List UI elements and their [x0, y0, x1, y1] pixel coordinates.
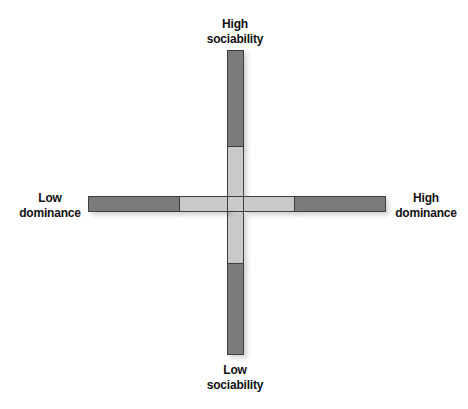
label-low-sociability: Low sociability	[185, 363, 285, 393]
label-high-sociability: High sociability	[185, 17, 285, 47]
axis-right-inner-segment	[243, 196, 295, 212]
axis-bottom-inner-segment	[227, 211, 244, 264]
axis-bottom-outer-segment	[227, 263, 244, 355]
label-line: High	[185, 17, 285, 32]
axis-left-outer-segment	[88, 196, 180, 212]
label-low-dominance: Low dominance	[12, 191, 88, 221]
axis-right-outer-segment	[294, 196, 386, 212]
axis-top-outer-segment	[227, 50, 244, 147]
label-line: Low	[185, 363, 285, 378]
axis-left-inner-segment	[179, 196, 228, 212]
label-line: sociability	[185, 32, 285, 47]
axis-intersection	[228, 197, 243, 211]
label-line: High	[386, 191, 466, 206]
label-line: Low	[12, 191, 88, 206]
label-high-dominance: High dominance	[386, 191, 466, 221]
label-line: dominance	[12, 206, 88, 221]
label-line: sociability	[185, 378, 285, 393]
axis-top-inner-segment	[227, 146, 244, 197]
label-line: dominance	[386, 206, 466, 221]
